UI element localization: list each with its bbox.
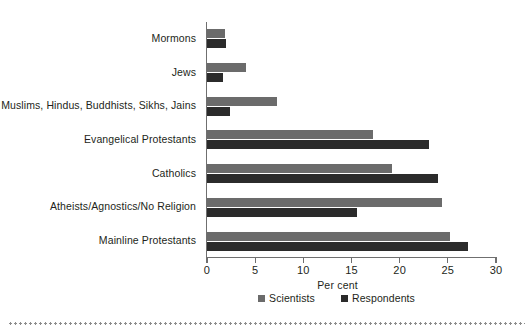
bar-respondents-4 (207, 174, 438, 183)
x-axis-tick-4 (399, 258, 400, 263)
bar-respondents-6 (207, 242, 468, 251)
y-axis-label-6: Mainline Protestants (0, 235, 202, 246)
y-axis-label-4: Catholics (0, 168, 202, 179)
y-axis-label-2: Muslims, Hindus, Buddhists, Sikhs, Jains (0, 100, 202, 111)
bar-respondents-1 (207, 73, 223, 82)
y-axis-label-1: Jews (0, 67, 202, 78)
legend-swatch-respondents (341, 295, 348, 302)
bar-group (207, 89, 496, 123)
bar-group (207, 22, 496, 56)
x-axis-tick-label-1: 5 (252, 264, 258, 276)
x-axis-tick-2 (303, 258, 304, 263)
bar-group (207, 191, 496, 225)
y-axis-label-0: Mormons (0, 33, 202, 44)
x-axis-tick-6 (495, 258, 496, 263)
bar-respondents-0 (207, 39, 226, 48)
x-axis-tick-1 (255, 258, 256, 263)
x-axis-tick-5 (447, 258, 448, 263)
x-axis-tick-label-0: 0 (204, 264, 210, 276)
x-axis-title-text: Per cent (317, 279, 358, 291)
x-axis-tick-label-4: 20 (393, 264, 406, 276)
bar-respondents-2 (207, 107, 230, 116)
y-axis-labels: MormonsJewsMuslims, Hindus, Buddhists, S… (0, 22, 202, 258)
x-axis-tick-0 (206, 258, 207, 263)
bar-chart: MormonsJewsMuslims, Hindus, Buddhists, S… (0, 0, 531, 331)
bar-group (207, 157, 496, 191)
legend-item-respondents[interactable]: Respondents (341, 292, 415, 304)
x-axis-tick-label-2: 10 (297, 264, 310, 276)
y-axis-label-5: Atheists/Agnostics/No Religion (0, 201, 202, 212)
legend-label-1: Respondents (352, 292, 415, 304)
bottom-dotted-divider (8, 322, 525, 325)
bar-scientists-0 (207, 29, 225, 38)
y-axis-line (206, 22, 207, 258)
bar-scientists-2 (207, 97, 277, 106)
legend-swatch-scientists (258, 295, 265, 302)
bar-respondents-3 (207, 140, 429, 149)
bar-group (207, 224, 496, 258)
legend-label-0: Scientists (269, 292, 315, 304)
bar-group (207, 56, 496, 90)
legend-item-scientists[interactable]: Scientists (258, 292, 315, 304)
x-axis-tick-label-6: 30 (490, 264, 503, 276)
x-axis-tick-3 (351, 258, 352, 263)
bar-scientists-6 (207, 232, 450, 241)
bar-scientists-4 (207, 164, 392, 173)
chart-legend: ScientistsRespondents (0, 292, 531, 304)
y-axis-label-3: Evangelical Protestants (0, 134, 202, 145)
plot-area (207, 22, 496, 258)
bar-group (207, 123, 496, 157)
x-axis-tick-label-5: 25 (442, 264, 455, 276)
bar-scientists-1 (207, 63, 246, 72)
x-axis-title: Per cent (0, 279, 531, 291)
x-axis-tick-label-3: 15 (345, 264, 358, 276)
bar-scientists-3 (207, 130, 373, 139)
bar-scientists-5 (207, 198, 442, 207)
bar-respondents-5 (207, 208, 357, 217)
